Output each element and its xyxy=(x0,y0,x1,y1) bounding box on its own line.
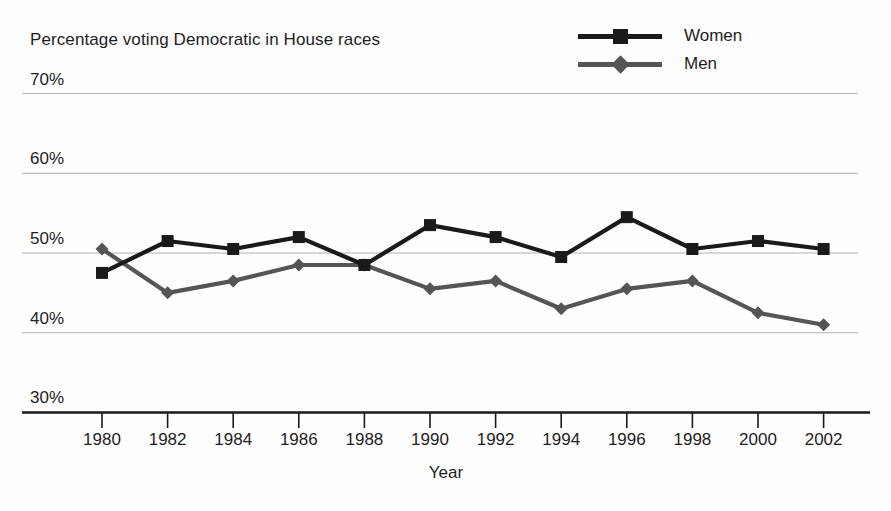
x-axis-tick-label: 1982 xyxy=(149,430,187,450)
data-point-square[interactable] xyxy=(162,235,174,247)
data-point-square[interactable] xyxy=(555,251,567,263)
series-line-men xyxy=(102,249,824,325)
series-men xyxy=(96,243,831,332)
data-point-square[interactable] xyxy=(818,243,830,255)
x-axis-tick-label: 1988 xyxy=(345,430,383,450)
data-point-diamond[interactable] xyxy=(620,282,633,295)
y-axis-tick-label: 40% xyxy=(30,309,64,329)
x-axis-tick-label: 1998 xyxy=(673,430,711,450)
x-axis-tick-label: 1986 xyxy=(280,430,318,450)
data-point-diamond[interactable] xyxy=(555,302,568,315)
x-axis-tick-label: 1980 xyxy=(83,430,121,450)
data-point-square[interactable] xyxy=(293,231,305,243)
x-axis-tick-label: 2000 xyxy=(739,430,777,450)
data-point-square[interactable] xyxy=(686,243,698,255)
x-axis-ticks xyxy=(102,413,824,428)
data-point-diamond[interactable] xyxy=(424,282,437,295)
data-point-diamond[interactable] xyxy=(227,274,240,287)
data-point-square[interactable] xyxy=(227,243,239,255)
x-axis-title: Year xyxy=(429,463,463,483)
data-point-diamond[interactable] xyxy=(489,274,502,287)
y-axis-tick-label: 30% xyxy=(30,388,64,408)
x-axis-tick-label: 1990 xyxy=(411,430,449,450)
data-point-diamond[interactable] xyxy=(752,306,765,319)
x-axis-tick-label: 1992 xyxy=(477,430,515,450)
series-line-women xyxy=(102,217,824,273)
y-axis-tick-label: 70% xyxy=(30,70,64,90)
y-axis-tick-label: 60% xyxy=(30,149,64,169)
data-point-square[interactable] xyxy=(358,259,370,271)
x-axis-tick-label: 1984 xyxy=(214,430,252,450)
chart-figure: Percentage voting Democratic in House ra… xyxy=(0,0,891,511)
x-axis-tick-label: 1994 xyxy=(542,430,580,450)
data-point-square[interactable] xyxy=(490,231,502,243)
y-axis-tick-label: 50% xyxy=(30,229,64,249)
series-women xyxy=(96,211,830,279)
x-axis-tick-label: 2002 xyxy=(805,430,843,450)
data-point-diamond[interactable] xyxy=(292,258,305,271)
data-point-square[interactable] xyxy=(621,211,633,223)
data-point-square[interactable] xyxy=(424,219,436,231)
data-point-diamond[interactable] xyxy=(817,318,830,331)
data-point-square[interactable] xyxy=(96,267,108,279)
x-axis-tick-label: 1996 xyxy=(608,430,646,450)
data-point-square[interactable] xyxy=(752,235,764,247)
